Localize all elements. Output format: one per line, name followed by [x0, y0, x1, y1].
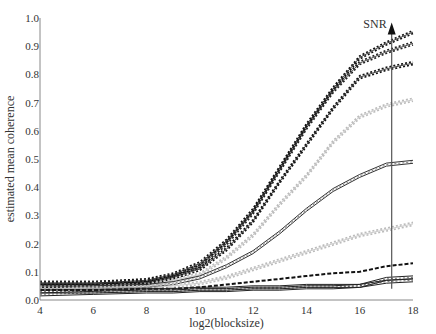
y-tick-label: 0.6	[25, 125, 39, 137]
chart-container: 4681012141618 0.00.10.20.30.40.50.60.70.…	[0, 0, 436, 334]
y-tick-label: 0.5	[25, 153, 39, 165]
y-tick-label: 0.3	[25, 209, 39, 221]
y-tick-label: 0.1	[25, 266, 39, 278]
coherence-line-chart: 4681012141618 0.00.10.20.30.40.50.60.70.…	[0, 0, 436, 334]
y-tick-labels: 0.00.10.20.30.40.50.60.70.80.91.0	[25, 12, 39, 306]
x-tick-label: 16	[354, 304, 366, 316]
x-tick-label: 12	[248, 304, 259, 316]
y-tick-label: 0.7	[25, 97, 39, 109]
y-tick-label: 0.0	[25, 294, 39, 306]
line-series-5	[40, 160, 413, 290]
arrow-up-icon	[388, 22, 396, 34]
y-tick-label: 0.2	[25, 238, 39, 250]
series-layer	[40, 31, 413, 296]
line-series-1	[40, 31, 413, 285]
x-tick-label: 14	[301, 304, 313, 316]
y-axis-label: estimated mean coherence	[3, 96, 17, 223]
x-axis-label: log2(blocksize)	[189, 316, 264, 330]
line-series-3	[40, 62, 413, 288]
snr-annotation: SNR	[363, 17, 395, 288]
line-series-4	[40, 98, 413, 290]
snr-label: SNR	[363, 17, 386, 31]
x-tick-labels: 4681012141618	[37, 304, 419, 316]
y-tick-label: 0.4	[25, 181, 39, 193]
x-tick-label: 10	[194, 304, 206, 316]
y-tick-label: 1.0	[25, 12, 39, 24]
y-tick-label: 0.9	[25, 40, 39, 52]
y-tick-label: 0.8	[25, 68, 39, 80]
x-tick-label: 6	[91, 304, 97, 316]
x-tick-label: 18	[408, 304, 420, 316]
x-tick-label: 8	[144, 304, 150, 316]
